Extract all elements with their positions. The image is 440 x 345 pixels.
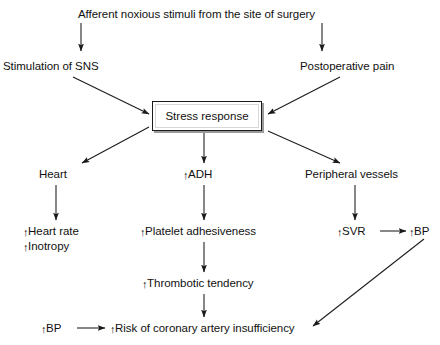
node-bp-lower: ↑BP	[41, 322, 61, 336]
node-risk-coronary-artery-insufficiency: ↑Risk of coronary artery insufficiency	[110, 322, 295, 336]
node-heart-rate: ↑Heart rate	[23, 225, 79, 239]
node-heart: Heart	[39, 168, 67, 182]
node-bp-upper: ↑BP	[409, 225, 429, 239]
node-platelet-text: Platelet adhesiveness	[145, 225, 256, 237]
node-heart-text: Heart	[39, 168, 67, 180]
node-postop-text: Postoperative pain	[300, 60, 394, 72]
connector-bp-top-to-risk	[313, 239, 424, 326]
node-periph-text: Peripheral vessels	[305, 168, 398, 180]
connector-stress-to-heart	[82, 127, 149, 163]
node-postoperative-pain: Postoperative pain	[300, 60, 394, 73]
node-adh-text: ADH	[188, 168, 212, 180]
node-svr-text: SVR	[342, 225, 366, 237]
node-thrombotic-text: Thrombotic tendency	[147, 277, 253, 289]
node-inotropy: ↑Inotropy	[23, 240, 69, 254]
connector-sns-to-stress	[73, 77, 149, 114]
node-afferent-text: Afferent noxious stimuli from the site o…	[78, 8, 315, 20]
node-platelet-adhesiveness: ↑Platelet adhesiveness	[140, 225, 256, 239]
node-svr: ↑SVR	[337, 225, 366, 239]
node-heart-rate-text: Heart rate	[28, 225, 79, 237]
stress-response-label: Stress response	[165, 110, 248, 122]
node-adh: ↑ADH	[183, 168, 212, 182]
node-afferent: Afferent noxious stimuli from the site o…	[78, 8, 315, 21]
node-thrombotic-tendency: ↑Thrombotic tendency	[142, 277, 254, 291]
stress-response-box: Stress response	[152, 101, 262, 131]
node-stimulation-of-sns: Stimulation of SNS	[3, 60, 99, 73]
node-inotropy-text: Inotropy	[28, 240, 69, 252]
connector-stress-to-periph	[268, 131, 340, 163]
node-risk-text: Risk of coronary artery insufficiency	[115, 322, 294, 334]
node-sns-text: Stimulation of SNS	[3, 60, 99, 72]
connector-postop-to-stress	[268, 77, 340, 114]
node-peripheral-vessels: Peripheral vessels	[305, 168, 398, 182]
node-bp-lower-text: BP	[46, 322, 61, 334]
stress-response-flowchart: Afferent noxious stimuli from the site o…	[0, 0, 440, 345]
node-bp-upper-text: BP	[414, 225, 429, 237]
